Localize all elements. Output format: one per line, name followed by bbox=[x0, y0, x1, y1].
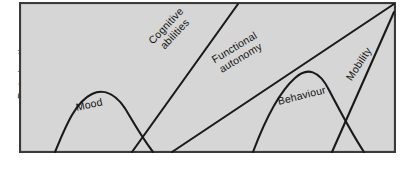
plot-background-rect bbox=[20, 3, 395, 152]
deterioration-chart-figure: Deterioration Mood Cognitive abilities F… bbox=[0, 0, 407, 173]
plot-area: Mood Cognitive abilities Functional auto… bbox=[19, 2, 396, 153]
chart-svg bbox=[19, 2, 396, 153]
